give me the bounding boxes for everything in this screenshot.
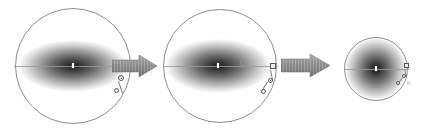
marker-orbit-primary-2[interactable] <box>268 78 273 83</box>
spin-axis-2 <box>163 66 278 67</box>
marker-orbit-node-2[interactable] <box>270 63 276 69</box>
glyph-g-2: G <box>240 60 246 68</box>
figure-title: Gravitational collapse sequence <box>0 0 1 1</box>
core-1 <box>72 63 74 68</box>
marker-orbit-primary-3[interactable] <box>402 74 406 78</box>
transition-arrow-2 <box>281 54 330 77</box>
marker-orbit-secondary-2[interactable] <box>261 89 266 94</box>
marker-orbit-node-3[interactable] <box>404 63 409 68</box>
marker-orbit-secondary-1[interactable] <box>114 88 119 93</box>
marker-core-dot <box>121 78 122 79</box>
marker-core-dot <box>270 80 271 81</box>
transition-arrow-1 <box>112 55 157 77</box>
marker-orbit-secondary-3[interactable] <box>396 81 400 85</box>
figure-canvas: G <box>0 0 421 131</box>
core-2 <box>217 63 219 68</box>
glyph-tail-3: b <box>407 80 411 87</box>
core-3 <box>375 66 377 71</box>
